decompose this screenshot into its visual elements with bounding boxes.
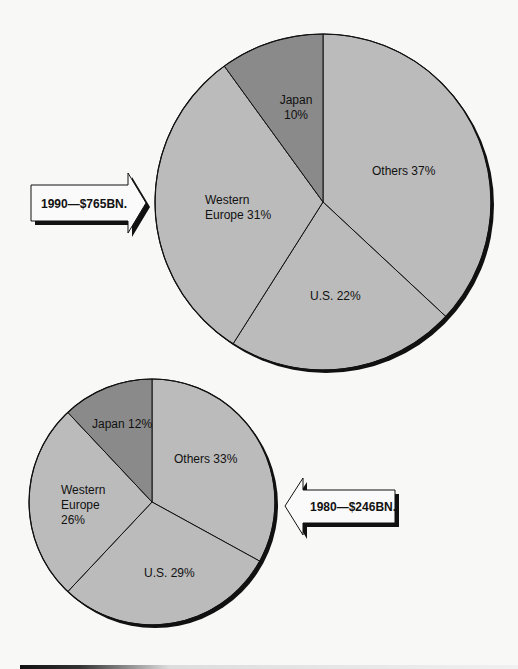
label-1980-western: Western [61,483,105,497]
label-1990-europe: Europe 31% [205,208,271,222]
pie-1990: Japan 10% Others 37% Western Europe 31% … [155,34,494,373]
bottom-rule [20,665,518,669]
label-1980-europe: Europe [61,498,100,512]
label-1980-japan: Japan 12% [92,417,152,431]
label-1990-us: U.S. 22% [310,289,361,303]
arrow-1990: 1990—$765BN. [31,173,150,237]
arrow-1980-label: 1980—$246BN. [310,500,396,514]
label-1980-others: Others 33% [174,452,238,466]
pie-chart-figure: Japan 10% Others 37% Western Europe 31% … [0,0,518,669]
label-1990-others: Others 37% [372,164,436,178]
label-1980-pct: 26% [61,513,85,527]
label-1990-western: Western [205,193,249,207]
pie-1980: Japan 12% Others 33% Western Europe 26% … [29,379,278,628]
arrow-1980: 1980—$246BN. [285,478,399,539]
arrow-1990-label: 1990—$765BN. [41,197,127,211]
label-1990-japan: Japan [280,93,313,107]
label-1980-us: U.S. 29% [144,566,195,580]
label-1990-japan-pct: 10% [284,108,308,122]
